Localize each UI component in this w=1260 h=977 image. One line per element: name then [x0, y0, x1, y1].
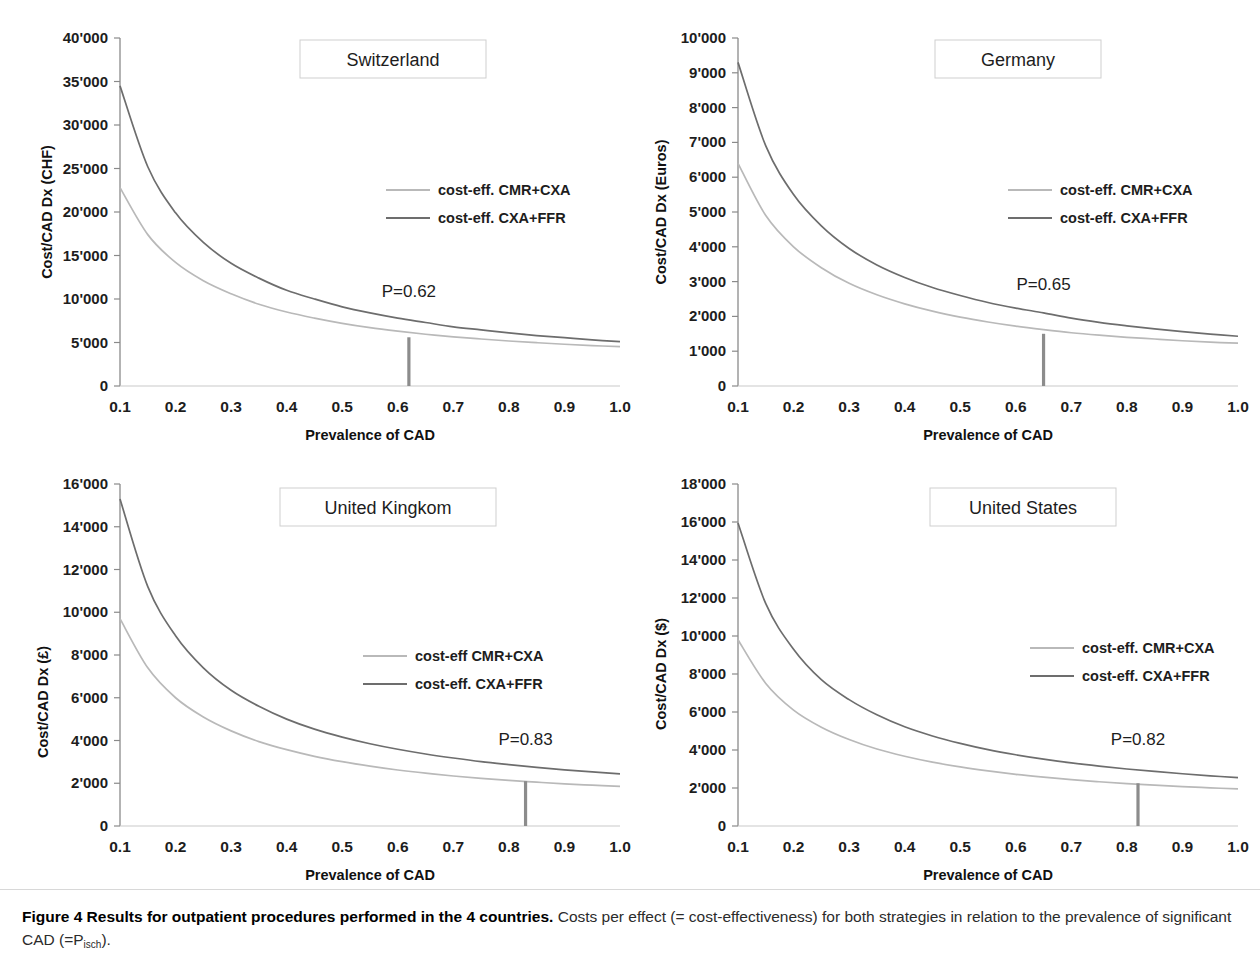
y-tick-label: 16'000: [681, 513, 726, 530]
legend-label-cxa-ffr: cost-eff. CXA+FFR: [438, 210, 566, 226]
caption-divider: [0, 889, 1260, 890]
x-tick-label: 0.9: [554, 838, 576, 855]
caption-subscript: isch: [84, 939, 102, 950]
chart-panel-united-kingkom: 02'0004'0006'0008'00010'00012'00014'0001…: [8, 452, 638, 892]
x-tick-label: 0.9: [554, 398, 576, 415]
x-tick-label: 0.2: [783, 838, 805, 855]
y-tick-label: 25'000: [63, 160, 108, 177]
chart-title: Switzerland: [346, 50, 439, 70]
chart-panel-switzerland: 05'00010'00015'00020'00025'00030'00035'0…: [8, 8, 638, 458]
x-tick-label: 1.0: [609, 838, 631, 855]
y-tick-label: 8'000: [689, 99, 726, 116]
x-tick-label: 1.0: [1227, 398, 1249, 415]
y-tick-label: 40'000: [63, 29, 108, 46]
y-tick-label: 6'000: [71, 689, 108, 706]
y-tick-label: 0: [100, 817, 108, 834]
x-axis-title: Prevalence of CAD: [305, 867, 435, 883]
x-tick-label: 0.3: [220, 838, 242, 855]
x-tick-label: 0.2: [165, 398, 187, 415]
chart-panel-germany: 01'0002'0003'0004'0005'0006'0007'0008'00…: [630, 8, 1255, 458]
legend-label-cmr-cxa: cost-eff. CMR+CXA: [438, 182, 571, 198]
chart-switzerland: 05'00010'00015'00020'00025'00030'00035'0…: [8, 8, 638, 458]
x-tick-label: 0.3: [220, 398, 242, 415]
y-tick-label: 4'000: [689, 741, 726, 758]
x-tick-label: 0.5: [331, 838, 353, 855]
y-tick-label: 3'000: [689, 273, 726, 290]
y-tick-label: 4'000: [71, 732, 108, 749]
x-axis-title: Prevalence of CAD: [923, 427, 1053, 443]
x-tick-label: 0.7: [1061, 398, 1083, 415]
x-tick-label: 0.3: [838, 398, 860, 415]
y-axis-title: Cost/CAD Dx ($): [653, 618, 669, 730]
legend-label-cmr-cxa: cost-eff CMR+CXA: [415, 648, 544, 664]
x-tick-label: 0.8: [498, 838, 520, 855]
chart-united-states: 02'0004'0006'0008'00010'00012'00014'0001…: [630, 452, 1255, 892]
crossover-label: P=0.83: [498, 730, 552, 749]
y-axis-title: Cost/CAD Dx (£): [35, 646, 51, 758]
y-tick-label: 6'000: [689, 703, 726, 720]
series-line-cxa-ffr: [738, 62, 1238, 336]
x-tick-label: 0.1: [109, 838, 131, 855]
x-tick-label: 0.2: [783, 398, 805, 415]
y-tick-label: 5'000: [71, 334, 108, 351]
x-axis-title: Prevalence of CAD: [923, 867, 1053, 883]
y-tick-label: 6'000: [689, 168, 726, 185]
y-tick-label: 35'000: [63, 73, 108, 90]
y-tick-label: 2'000: [71, 774, 108, 791]
y-tick-label: 0: [718, 377, 726, 394]
y-tick-label: 12'000: [63, 561, 108, 578]
chart-title: United States: [969, 498, 1077, 518]
legend-label-cxa-ffr: cost-eff. CXA+FFR: [1060, 210, 1188, 226]
x-tick-label: 0.5: [331, 398, 353, 415]
chart-title: United Kingkom: [324, 498, 451, 518]
y-tick-label: 16'000: [63, 475, 108, 492]
y-tick-label: 0: [718, 817, 726, 834]
x-tick-label: 0.3: [838, 838, 860, 855]
caption-tail: ).: [101, 931, 110, 948]
y-tick-label: 9'000: [689, 64, 726, 81]
chart-germany: 01'0002'0003'0004'0005'0006'0007'0008'00…: [630, 8, 1255, 458]
chart-united-kingkom: 02'0004'0006'0008'00010'00012'00014'0001…: [8, 452, 638, 892]
x-tick-label: 0.7: [443, 838, 465, 855]
series-line-cmr-cxa: [120, 619, 620, 787]
y-tick-label: 2'000: [689, 779, 726, 796]
x-tick-label: 0.2: [165, 838, 187, 855]
y-axis-title: Cost/CAD Dx (CHF): [39, 145, 55, 279]
chart-panel-united-states: 02'0004'0006'0008'00010'00012'00014'0001…: [630, 452, 1255, 892]
x-tick-label: 0.9: [1172, 838, 1194, 855]
y-tick-label: 12'000: [681, 589, 726, 606]
legend-label-cmr-cxa: cost-eff. CMR+CXA: [1060, 182, 1193, 198]
x-tick-label: 0.6: [1005, 398, 1027, 415]
x-tick-label: 0.4: [276, 838, 298, 855]
y-tick-label: 1'000: [689, 342, 726, 359]
x-tick-label: 0.6: [387, 398, 409, 415]
y-tick-label: 0: [100, 377, 108, 394]
x-tick-label: 1.0: [1227, 838, 1249, 855]
x-tick-label: 0.1: [727, 398, 749, 415]
x-tick-label: 0.8: [1116, 838, 1138, 855]
x-tick-label: 0.7: [1061, 838, 1083, 855]
x-tick-label: 0.5: [949, 838, 971, 855]
y-tick-label: 10'000: [63, 290, 108, 307]
x-tick-label: 0.4: [894, 838, 916, 855]
y-tick-label: 8'000: [689, 665, 726, 682]
legend-label-cxa-ffr: cost-eff. CXA+FFR: [1082, 668, 1210, 684]
crossover-label: P=0.62: [382, 282, 436, 301]
x-tick-label: 0.9: [1172, 398, 1194, 415]
figure-4: 05'00010'00015'00020'00025'00030'00035'0…: [0, 0, 1260, 977]
series-line-cmr-cxa: [738, 640, 1238, 789]
x-tick-label: 0.4: [276, 398, 298, 415]
y-tick-label: 7'000: [689, 133, 726, 150]
crossover-label: P=0.65: [1016, 275, 1070, 294]
x-tick-label: 1.0: [609, 398, 631, 415]
chart-title: Germany: [981, 50, 1055, 70]
y-tick-label: 14'000: [63, 518, 108, 535]
y-tick-label: 10'000: [681, 29, 726, 46]
y-tick-label: 2'000: [689, 307, 726, 324]
figure-caption: Figure 4 Results for outpatient procedur…: [22, 905, 1238, 952]
y-tick-label: 10'000: [681, 627, 726, 644]
x-tick-label: 0.8: [1116, 398, 1138, 415]
y-tick-label: 4'000: [689, 238, 726, 255]
y-tick-label: 8'000: [71, 646, 108, 663]
x-tick-label: 0.8: [498, 398, 520, 415]
